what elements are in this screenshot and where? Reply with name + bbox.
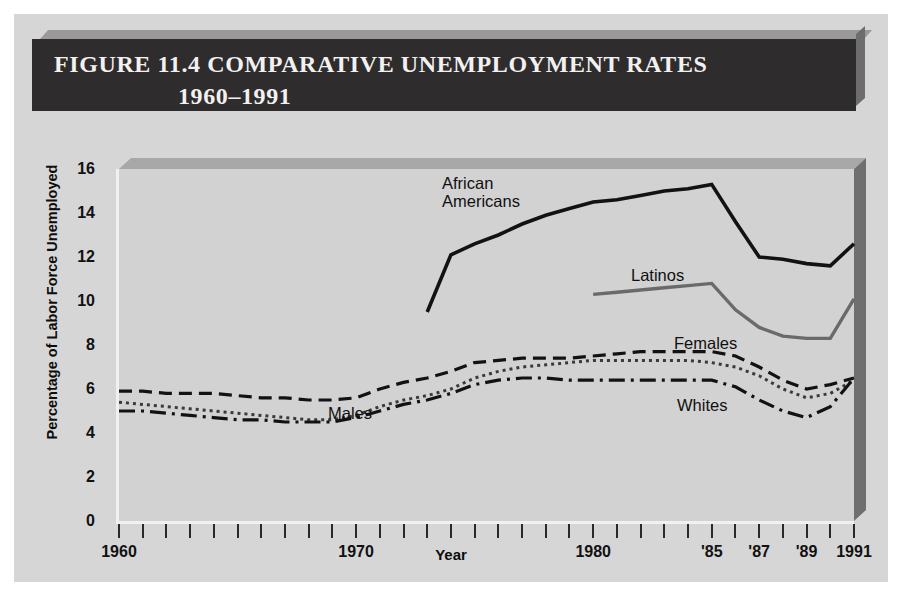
series-label-latinos: Latinos: [631, 266, 684, 284]
series-label-males: Males: [328, 404, 372, 422]
figure-title-line-2: 1960–1991: [178, 84, 291, 108]
chart-zone: Percentage of Labor Force Unemployed Yea…: [14, 118, 888, 582]
figure-panel: FIGURE 11.4 COMPARATIVE UNEMPLOYMENT RAT…: [14, 14, 888, 582]
series-label-line: African: [442, 174, 520, 192]
series-label-african-americans: AfricanAmericans: [442, 174, 520, 211]
figure-title-line-1: FIGURE 11.4 COMPARATIVE UNEMPLOYMENT RAT…: [54, 52, 707, 76]
figure-page: FIGURE 11.4 COMPARATIVE UNEMPLOYMENT RAT…: [0, 0, 902, 596]
title-bevel-top: [40, 30, 872, 39]
series-label-females: Females: [674, 334, 737, 352]
figure-title-bar: FIGURE 11.4 COMPARATIVE UNEMPLOYMENT RAT…: [32, 30, 864, 114]
series-label-whites: Whites: [677, 396, 727, 414]
series-label-line: Americans: [442, 192, 520, 210]
title-bevel-right: [856, 26, 865, 106]
